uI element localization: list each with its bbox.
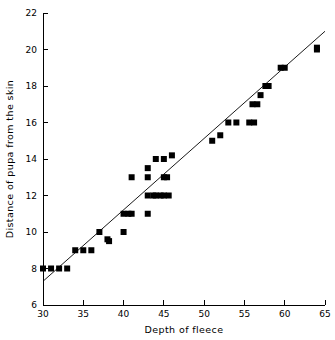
axes-group	[43, 13, 325, 305]
y-tick-label: 10	[26, 227, 38, 237]
data-point-marker	[145, 174, 151, 180]
data-point-marker	[64, 266, 70, 272]
data-point-marker	[56, 266, 62, 272]
x-tick-label: 40	[118, 309, 130, 319]
data-point-marker	[161, 156, 167, 162]
y-tick-label: 18	[26, 81, 38, 91]
data-point-marker	[209, 138, 215, 144]
data-point-marker	[129, 174, 135, 180]
data-point-marker	[96, 229, 102, 235]
x-axis-title: Depth of fleece	[145, 324, 224, 335]
x-tick-label: 45	[158, 309, 169, 319]
data-point-marker	[48, 266, 54, 272]
data-point-marker	[164, 174, 170, 180]
x-tick-label: 65	[319, 309, 330, 319]
y-axis-title: Distance of pupa from the skin	[4, 80, 15, 239]
data-point-marker	[153, 156, 159, 162]
data-point-marker	[121, 229, 127, 235]
x-tick-label: 60	[279, 309, 291, 319]
y-tick-label: 22	[26, 8, 37, 18]
data-point-marker	[72, 247, 78, 253]
y-tick-label: 16	[26, 118, 38, 128]
data-point-marker	[166, 193, 172, 199]
x-tick-label: 30	[37, 309, 49, 319]
data-point-marker	[314, 45, 320, 51]
data-point-marker	[225, 120, 231, 126]
data-point-marker	[282, 65, 288, 71]
y-tick-label: 12	[26, 191, 37, 201]
axis-spines	[43, 13, 325, 305]
data-points-group	[40, 45, 320, 272]
data-point-marker	[40, 266, 46, 272]
x-axis-ticks: 3035404550556065	[37, 300, 330, 319]
data-point-marker	[251, 120, 257, 126]
y-tick-label: 20	[26, 45, 38, 55]
y-axis-ticks: 6810121416182022	[26, 8, 48, 310]
data-point-marker	[254, 101, 260, 107]
data-point-marker	[233, 120, 239, 126]
data-point-marker	[217, 132, 223, 138]
x-tick-label: 55	[239, 309, 250, 319]
x-tick-label: 50	[198, 309, 210, 319]
x-tick-label: 35	[78, 309, 89, 319]
scatter-plot-figure: 68101214161820223035404550556065Depth of…	[0, 0, 335, 340]
data-point-marker	[266, 83, 272, 89]
y-tick-label: 14	[26, 154, 38, 164]
data-point-marker	[169, 152, 175, 158]
data-point-marker	[145, 165, 151, 171]
data-point-marker	[88, 247, 94, 253]
data-point-marker	[258, 92, 264, 98]
data-point-marker	[106, 238, 112, 244]
y-tick-label: 8	[31, 264, 37, 274]
data-point-marker	[145, 211, 151, 217]
data-point-marker	[80, 247, 86, 253]
plot-canvas: 68101214161820223035404550556065Depth of…	[0, 0, 335, 340]
data-point-marker	[145, 193, 151, 199]
data-point-marker	[129, 211, 135, 217]
